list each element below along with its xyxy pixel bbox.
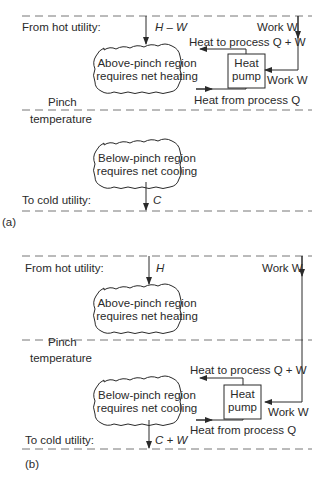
below-pinch-text-a: Below-pinch region requires net cooling xyxy=(96,152,198,178)
work-in-label-a: Work W xyxy=(257,21,298,34)
temperature-label-a: temperature xyxy=(30,113,92,126)
cold-flow-label-b: C + W xyxy=(155,434,187,447)
heat-from-process-label-a: Heat from process Q xyxy=(194,94,300,107)
pinch-label-a: Pinch xyxy=(48,96,77,109)
work-in-label-b: Work W xyxy=(262,262,303,275)
hot-flow-label-b: H xyxy=(156,262,164,275)
heat-to-process-label-a: Heat to process Q + W xyxy=(189,36,306,49)
hot-flow-label-a: H – W xyxy=(155,21,187,34)
heat-pump-label-a: Heat pump xyxy=(228,57,265,83)
cold-flow-label-a: C xyxy=(153,194,161,207)
cold-utility-label-a: To cold utility: xyxy=(22,194,91,207)
work-label2-b: Work W xyxy=(268,406,309,419)
below-pinch-text-b: Below-pinch region requires net cooling xyxy=(96,389,198,415)
heat-from-process-label-b: Heat from process Q xyxy=(190,424,296,437)
hot-utility-label-b: From hot utility: xyxy=(25,262,104,275)
above-pinch-text-a: Above-pinch region requires net heating xyxy=(96,57,198,83)
hot-utility-label-a: From hot utility: xyxy=(22,21,101,34)
caption-a: (a) xyxy=(2,216,16,229)
cold-utility-label-b: To cold utility: xyxy=(25,434,94,447)
heat-pump-label-b: Heat pump xyxy=(224,388,261,414)
caption-b: (b) xyxy=(25,458,39,471)
above-pinch-text-b: Above-pinch region requires net heating xyxy=(96,297,198,323)
pinch-label-b: Pinch xyxy=(48,336,77,349)
heat-to-process-label-b: Heat to process Q + W xyxy=(190,364,307,377)
work-label2-a: Work W xyxy=(267,74,308,87)
temperature-label-b: temperature xyxy=(30,352,92,365)
